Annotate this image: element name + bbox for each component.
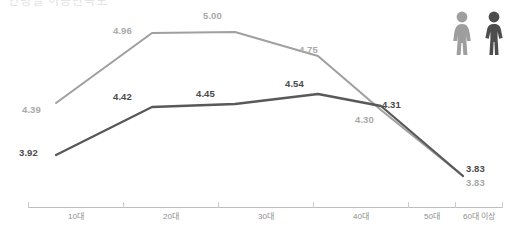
data-label-male-30s: 4.45: [196, 88, 215, 99]
data-label-male-20s: 4.42: [113, 91, 132, 102]
series-line-male: [56, 94, 463, 176]
data-label-male-60s: 3.83: [466, 163, 485, 174]
x-tick-label-10s: 10대: [46, 210, 106, 221]
series-line-female: [56, 32, 463, 176]
line-chart: 연령별 이용만족도 4.39 4.96 5.00 4.75 4.30 3.83 …: [0, 0, 518, 240]
x-tick-label-20s: 20대: [141, 210, 201, 221]
data-label-female-50s: 4.30: [355, 114, 374, 125]
data-label-male-10s: 3.92: [19, 147, 38, 158]
x-tick-label-40s: 40대: [331, 210, 391, 221]
x-tick-label-30s: 30대: [236, 210, 296, 221]
data-label-male-40s: 4.54: [285, 78, 304, 89]
female-figure-icon: [450, 10, 474, 58]
data-label-female-10s: 4.39: [22, 104, 41, 115]
x-tick-label-60s: 60대 이상: [449, 210, 509, 221]
chart-legend: [450, 6, 506, 58]
chart-plot-area: [0, 0, 518, 240]
data-label-female-40s: 4.75: [299, 44, 318, 55]
data-label-male-50s: 4.31: [382, 99, 401, 110]
data-label-female-20s: 4.96: [113, 25, 132, 36]
data-label-female-30s: 5.00: [203, 10, 222, 21]
male-figure-icon: [482, 10, 506, 58]
data-label-female-60s: 3.83: [466, 177, 485, 188]
